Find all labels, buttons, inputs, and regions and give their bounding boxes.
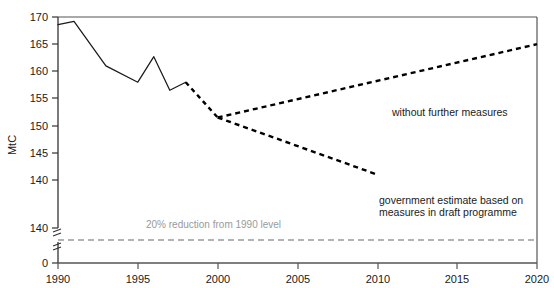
x-tick-label-1995: 1995 (126, 273, 150, 285)
chart-svg: 170 165 160 155 150 145 140 140 0 MtC 19… (0, 0, 554, 288)
annotation-government-estimate-line2: measures in draft programme (379, 206, 517, 218)
y-tick-label-165: 165 (30, 38, 48, 50)
y-tick-label-170: 170 (30, 11, 48, 23)
series-line-transition (186, 82, 218, 117)
series-line-government-estimate (218, 118, 378, 175)
y-tick-label-0: 0 (42, 257, 48, 269)
x-tick-label-1990: 1990 (46, 273, 70, 285)
x-tick-label-2005: 2005 (286, 273, 310, 285)
chart-container: 170 165 160 155 150 145 140 140 0 MtC 19… (0, 0, 554, 288)
y-tick-label-155: 155 (30, 92, 48, 104)
y-tick-label-145: 145 (30, 147, 48, 159)
annotation-government-estimate-line1: government estimate based on (379, 194, 523, 206)
annotation-without-further-measures: without further measures (391, 106, 508, 118)
annotation-reduction-target: 20% reduction from 1990 level (146, 219, 281, 230)
x-tick-label-2015: 2015 (445, 273, 469, 285)
y-axis-ticks (52, 17, 58, 263)
x-tick-label-2020: 2020 (525, 273, 549, 285)
y-axis-title: MtC (6, 135, 18, 155)
y-tick-label-140-upper: 140 (30, 174, 48, 186)
x-axis-ticks (58, 263, 537, 269)
y-tick-label-140-lower: 140 (30, 222, 48, 234)
y-tick-label-150: 150 (30, 120, 48, 132)
x-tick-label-2010: 2010 (366, 273, 390, 285)
x-tick-label-2000: 2000 (206, 273, 230, 285)
series-line-historical (58, 21, 186, 90)
y-tick-label-160: 160 (30, 65, 48, 77)
